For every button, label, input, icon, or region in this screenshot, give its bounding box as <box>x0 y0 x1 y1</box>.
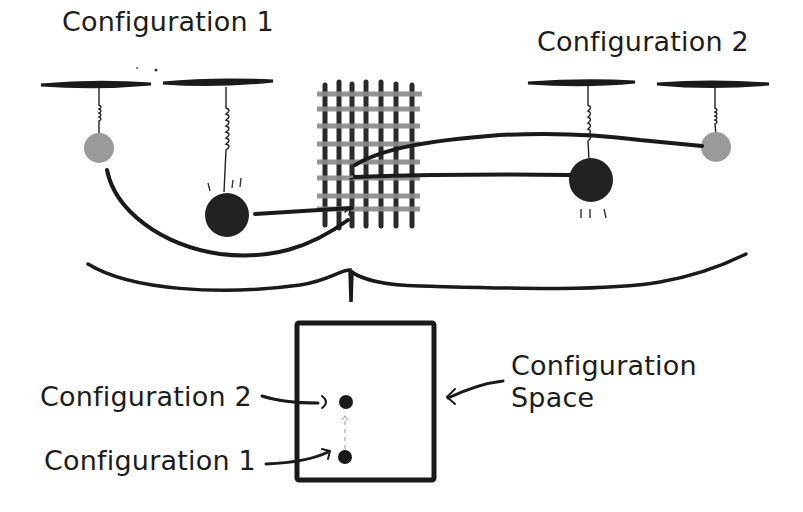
mapping-curve <box>355 175 570 177</box>
config1-point <box>338 450 352 464</box>
diagram-drawing <box>0 0 803 512</box>
ceiling-bar <box>657 82 769 87</box>
spring <box>224 87 229 192</box>
config1-pendulums <box>41 80 273 237</box>
spring <box>99 87 101 140</box>
configuration-space-diagram: Configuration 1 Configuration 2 Configur… <box>0 0 803 512</box>
grouping-brace <box>88 254 746 302</box>
config2-pendulums <box>528 81 769 218</box>
transition-arrowhead <box>342 416 348 420</box>
light-bob <box>701 132 731 162</box>
pointer-space <box>448 381 503 398</box>
spring <box>588 86 591 160</box>
ceiling-bar <box>41 82 151 87</box>
dark-bob <box>205 193 249 237</box>
dark-bob <box>569 158 613 202</box>
ceiling-bar <box>528 81 635 85</box>
configuration-grid <box>317 82 422 228</box>
stray-dots <box>136 67 158 72</box>
ceiling-bar <box>163 80 273 85</box>
spring <box>715 86 717 135</box>
light-bob <box>84 133 114 163</box>
config2-point <box>339 395 353 409</box>
pointer-config2 <box>262 396 318 403</box>
motion-marks <box>581 209 606 218</box>
